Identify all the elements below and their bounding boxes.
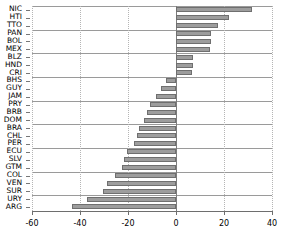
bar-nic xyxy=(176,7,252,12)
y-axis-tick xyxy=(26,207,30,208)
bar-per xyxy=(134,141,176,146)
y-axis-tick xyxy=(26,160,30,161)
y-axis-tick xyxy=(26,34,30,35)
bar-sur xyxy=(103,189,176,194)
y-axis-tick xyxy=(26,10,30,11)
y-axis-tick xyxy=(26,112,30,113)
bar-dom xyxy=(144,118,176,123)
bar-cri xyxy=(176,70,192,75)
vertical-gridline xyxy=(272,6,274,211)
bar-arg xyxy=(72,204,176,209)
x-axis-tick-label: -40 xyxy=(73,219,86,228)
y-axis-category-labels: NICHTITTOPANBOLMEXBLZHNDCRIBHSGUYJAMPRYB… xyxy=(0,6,30,211)
bar-bol xyxy=(176,39,211,44)
vertical-gridline xyxy=(80,6,82,211)
bar-bra xyxy=(139,126,176,131)
bar-blz xyxy=(176,55,193,60)
y-axis-tick xyxy=(26,176,30,177)
bar-hti xyxy=(176,15,229,20)
y-axis-tick xyxy=(26,120,30,121)
y-axis-tick xyxy=(26,89,30,90)
vertical-gridline xyxy=(32,6,34,211)
y-axis-tick xyxy=(26,41,30,42)
bar-chl xyxy=(137,133,176,138)
bar-col xyxy=(115,173,176,178)
x-axis-tick-label: 40 xyxy=(267,219,277,228)
bar-slv xyxy=(124,157,176,162)
bar-ury xyxy=(87,197,176,202)
bar-ecu xyxy=(127,149,176,154)
y-axis-tick xyxy=(26,26,30,27)
y-axis-tick xyxy=(26,57,30,58)
y-axis-tick xyxy=(26,18,30,19)
y-axis-tick xyxy=(26,152,30,153)
y-axis-tick xyxy=(26,73,30,74)
y-axis-tick xyxy=(26,144,30,145)
x-axis-tick xyxy=(272,211,273,215)
bar-mex xyxy=(176,47,210,52)
bar-bhs xyxy=(166,78,176,83)
x-axis-tick xyxy=(224,211,225,215)
y-axis-tick xyxy=(26,191,30,192)
bar-pan xyxy=(176,31,211,36)
bar-pry xyxy=(150,102,176,107)
y-axis-tick xyxy=(26,183,30,184)
x-axis-tick xyxy=(80,211,81,215)
horizontal-gridline xyxy=(32,53,272,54)
bar-gtm xyxy=(122,165,176,170)
vertical-gridline xyxy=(224,6,226,211)
horizontal-gridline xyxy=(32,30,272,31)
horizontal-gridline xyxy=(32,77,272,78)
x-axis-tick-label: -60 xyxy=(25,219,38,228)
y-axis-tick xyxy=(26,136,30,137)
x-axis-line xyxy=(32,211,273,212)
bar-chart: NICHTITTOPANBOLMEXBLZHNDCRIBHSGUYJAMPRYB… xyxy=(0,0,283,236)
plot-area xyxy=(32,6,272,211)
bar-tto xyxy=(176,23,218,28)
bar-jam xyxy=(156,94,176,99)
x-axis-tick xyxy=(128,211,129,215)
y-axis-tick xyxy=(26,199,30,200)
bar-brb xyxy=(147,110,176,115)
y-axis-tick xyxy=(26,97,30,98)
bar-ven xyxy=(107,181,176,186)
y-axis-tick xyxy=(26,49,30,50)
x-axis-tick-label: 0 xyxy=(173,219,178,228)
bar-hnd xyxy=(176,63,193,68)
x-axis-tick xyxy=(176,211,177,215)
x-axis-tick xyxy=(32,211,33,215)
y-axis-tick xyxy=(26,168,30,169)
y-axis-tick xyxy=(26,65,30,66)
zero-reference-line xyxy=(176,6,177,211)
y-axis-tick xyxy=(26,128,30,129)
bar-guy xyxy=(161,86,176,91)
y-axis-tick xyxy=(26,81,30,82)
y-axis-tick xyxy=(26,105,30,106)
x-axis-tick-label: 20 xyxy=(219,219,229,228)
x-axis-tick-label: -20 xyxy=(121,219,134,228)
y-axis-label-arg: ARG xyxy=(6,203,22,211)
